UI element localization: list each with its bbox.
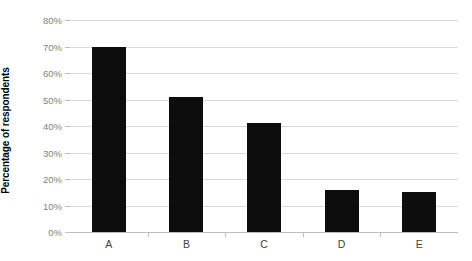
- y-tick-mark: [65, 73, 70, 74]
- x-tick-label: A: [79, 238, 139, 250]
- y-tick-label: 50%: [22, 94, 62, 105]
- y-tick-mark: [65, 47, 70, 48]
- axes-layer: 0%10%20%30%40%50%60%70%80%ABCDE: [0, 0, 472, 261]
- y-tick-mark: [65, 232, 70, 233]
- y-tick-mark: [65, 100, 70, 101]
- y-tick-mark: [65, 179, 70, 180]
- x-tick-mark: [148, 232, 149, 237]
- x-tick-mark: [380, 232, 381, 237]
- x-tick-mark: [225, 232, 226, 237]
- y-tick-label: 80%: [22, 15, 62, 26]
- x-tick-label: D: [312, 238, 372, 250]
- y-tick-mark: [65, 153, 70, 154]
- y-tick-label: 30%: [22, 147, 62, 158]
- y-tick-label: 0%: [22, 227, 62, 238]
- x-tick-mark: [303, 232, 304, 237]
- y-tick-label: 60%: [22, 68, 62, 79]
- y-tick-mark: [65, 126, 70, 127]
- y-tick-label: 70%: [22, 41, 62, 52]
- y-tick-label: 20%: [22, 174, 62, 185]
- y-tick-label: 10%: [22, 200, 62, 211]
- y-tick-label: 40%: [22, 121, 62, 132]
- y-tick-mark: [65, 20, 70, 21]
- x-tick-label: C: [234, 238, 294, 250]
- y-tick-mark: [65, 206, 70, 207]
- x-tick-label: E: [389, 238, 449, 250]
- x-tick-label: B: [156, 238, 216, 250]
- bar-chart: Percentage of respondents 0%10%20%30%40%…: [0, 0, 472, 261]
